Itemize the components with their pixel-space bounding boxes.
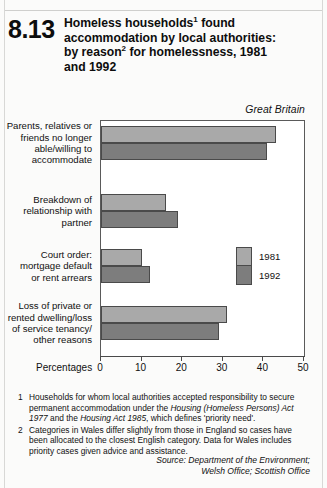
category-label-1-line-4: accommodate bbox=[32, 154, 92, 165]
x-tick-label-30: 30 bbox=[216, 362, 227, 373]
category-label-3: Court order:mortgage defaultor rent arre… bbox=[0, 249, 92, 283]
bar-1992-group-2 bbox=[101, 211, 178, 228]
figure-title: Homeless households1 found accommodation… bbox=[64, 16, 310, 74]
chart: Great Britain Parents, relatives orfrien… bbox=[0, 104, 327, 376]
category-label-1-line-3: able/willing to bbox=[34, 143, 92, 154]
chart-subtitle: Great Britain bbox=[245, 104, 305, 115]
category-label-1: Parents, relatives orfriends no longerab… bbox=[0, 120, 92, 166]
footnote-1: 1Households for whom local authorities a… bbox=[18, 392, 310, 424]
x-tick-30 bbox=[222, 357, 223, 361]
category-label-1-line-2: friends no longer bbox=[21, 132, 92, 143]
source-line-2: Welsh Office; Scottish Office bbox=[201, 466, 310, 476]
footnote-1-text-c: , which defines 'priority need'. bbox=[146, 413, 255, 423]
bar-1981-group-3 bbox=[101, 249, 142, 266]
footnote-2-text-a: Categories in Wales differ slightly from… bbox=[29, 425, 292, 456]
bar-1981-group-1 bbox=[101, 126, 276, 143]
x-tick-label-40: 40 bbox=[257, 362, 268, 373]
bar-1992-group-4 bbox=[101, 323, 219, 340]
figure-page: 8.13 Homeless households1 found accommod… bbox=[0, 0, 327, 488]
x-tick-0 bbox=[100, 357, 101, 361]
category-label-2: Breakdown ofrelationship withpartner bbox=[0, 194, 92, 228]
source-line-1: Source: Department of the Environment; bbox=[156, 455, 310, 465]
figure-title-line1: Homeless households bbox=[64, 16, 193, 30]
x-tick-label-20: 20 bbox=[176, 362, 187, 373]
x-tick-40 bbox=[262, 357, 263, 361]
category-label-4-line-3: of service tenancy/ bbox=[12, 323, 92, 334]
x-tick-label-10: 10 bbox=[135, 362, 146, 373]
footnote-marker-2: 2 bbox=[18, 425, 29, 457]
x-tick-50 bbox=[303, 357, 304, 361]
bars-layer bbox=[101, 121, 304, 356]
category-label-3-line-3: or rent arrears bbox=[31, 272, 92, 283]
footnote-1-cite-b: Housing Act 1985 bbox=[80, 413, 146, 423]
category-label-3-line-2: mortgage default bbox=[20, 260, 92, 271]
figure-title-line1b: found bbox=[198, 16, 235, 30]
category-axis-labels: Parents, relatives orfriends no longerab… bbox=[0, 120, 96, 357]
source-note: Source: Department of the Environment; W… bbox=[60, 455, 310, 477]
legend-label-1992: 1992 bbox=[259, 270, 280, 281]
bar-1992-group-3 bbox=[101, 266, 150, 283]
footnote-text-2: Categories in Wales differ slightly from… bbox=[29, 425, 310, 457]
category-label-1-line-1: Parents, relatives or bbox=[7, 120, 92, 131]
category-label-4: Loss of private orrented dwelling/lossof… bbox=[0, 300, 92, 346]
figure-title-line2: accommodation by local authorities: bbox=[64, 31, 276, 45]
footnote-2: 2Categories in Wales differ slightly fro… bbox=[18, 425, 310, 457]
page-top-rule bbox=[5, 10, 322, 11]
figure-title-line3b: for homelessness, 1981 bbox=[126, 45, 267, 59]
bar-1981-group-2 bbox=[101, 194, 166, 211]
x-axis-caption: Percentages bbox=[36, 362, 92, 373]
x-tick-label-50: 50 bbox=[297, 362, 308, 373]
footnote-text-1: Households for whom local authorities ac… bbox=[29, 392, 310, 424]
chart-legend: 19811992 bbox=[236, 247, 296, 285]
footnote-marker-1: 1 bbox=[18, 392, 29, 424]
x-axis-line bbox=[100, 356, 305, 357]
legend-label-1981: 1981 bbox=[259, 251, 280, 262]
bar-1981-group-4 bbox=[101, 306, 227, 323]
legend-swatch-1992 bbox=[236, 266, 252, 285]
category-label-2-line-2: relationship with bbox=[23, 205, 92, 216]
category-label-2-line-1: Breakdown of bbox=[33, 194, 92, 205]
category-label-4-line-4: other reasons bbox=[33, 334, 92, 345]
figure-number: 8.13 bbox=[8, 16, 64, 42]
category-label-3-line-1: Court order: bbox=[41, 249, 92, 260]
legend-item-1992: 1992 bbox=[236, 266, 296, 285]
legend-item-1981: 1981 bbox=[236, 247, 296, 266]
x-tick-label-0: 0 bbox=[97, 362, 103, 373]
footnote-1-text-b: and the bbox=[48, 413, 81, 423]
footnotes: 1Households for whom local authorities a… bbox=[18, 392, 310, 458]
category-label-2-line-3: partner bbox=[62, 217, 92, 228]
x-tick-10 bbox=[141, 357, 142, 361]
bar-1992-group-1 bbox=[101, 143, 267, 160]
x-tick-20 bbox=[181, 357, 182, 361]
figure-title-line3a: by reason bbox=[64, 45, 122, 59]
category-label-4-line-1: Loss of private or bbox=[18, 300, 92, 311]
legend-swatch-1981 bbox=[236, 247, 252, 266]
figure-header: 8.13 Homeless households1 found accommod… bbox=[8, 16, 320, 74]
figure-title-line4: and 1992 bbox=[64, 60, 116, 74]
category-label-4-line-2: rented dwelling/loss bbox=[8, 312, 92, 323]
